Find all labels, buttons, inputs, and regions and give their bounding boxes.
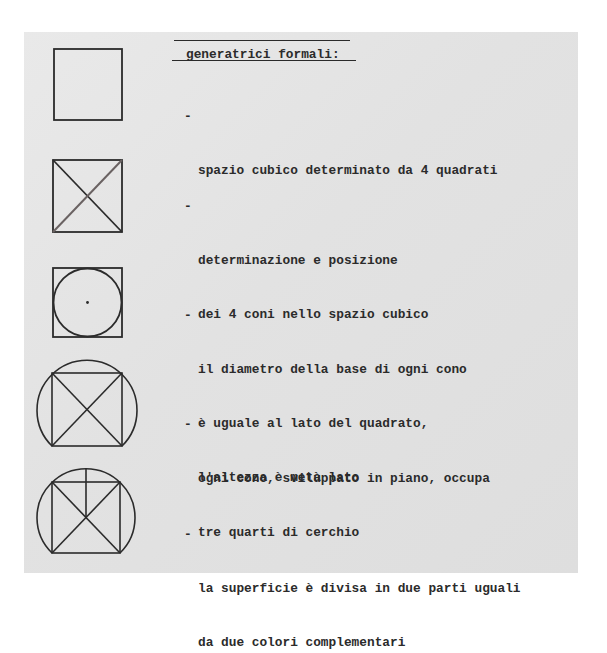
list-item: - ogni cono, sviluppato in piano, occupa… [0,398,15,452]
three-quarter-circle-around-square-icon [37,360,137,446]
heading-top-rule [174,40,350,41]
heading-bottom-rule [172,60,356,61]
item-line: tre quarti di cerchio [198,524,490,542]
item-line: determinazione e posizione [198,252,428,270]
list-item: - il diametro della base di ogni cono è … [0,289,15,343]
item-line: il diametro della base di ogni cono [198,361,467,379]
list-item: - determinazione e posizione dei 4 coni … [0,180,15,234]
item-line: spazio cubico determinato da 4 quadrati [198,162,498,180]
bullet-dash: - [184,416,192,434]
item-text: la superficie è divisa in due parti ugua… [198,544,521,653]
list-item: - spazio cubico determinato da 4 quadrat… [0,90,15,144]
square-icon [54,49,122,120]
page-heading: generatrici formali: [186,46,340,64]
item-line: dei 4 coni nello spazio cubico [198,306,428,324]
square-with-diagonals-icon [53,160,122,232]
divided-circle-square-icon [37,468,135,553]
bullet-dash: - [184,198,192,216]
item-line: ogni cono, sviluppato in piano, occupa [198,470,490,488]
bullet-dash: - [184,307,192,325]
item-line: da due colori complementari [198,634,521,652]
item-line: è uguale al lato del quadrato, [198,415,467,433]
bullet-dash: - [184,108,192,126]
item-text: spazio cubico determinato da 4 quadrati [198,126,498,216]
list-item: - la superficie è divisa in due parti ug… [0,508,15,562]
item-line: la superficie è divisa in due parti ugua… [198,580,521,598]
bullet-dash: - [184,526,192,544]
circle-inscribed-in-square-icon [53,268,122,337]
